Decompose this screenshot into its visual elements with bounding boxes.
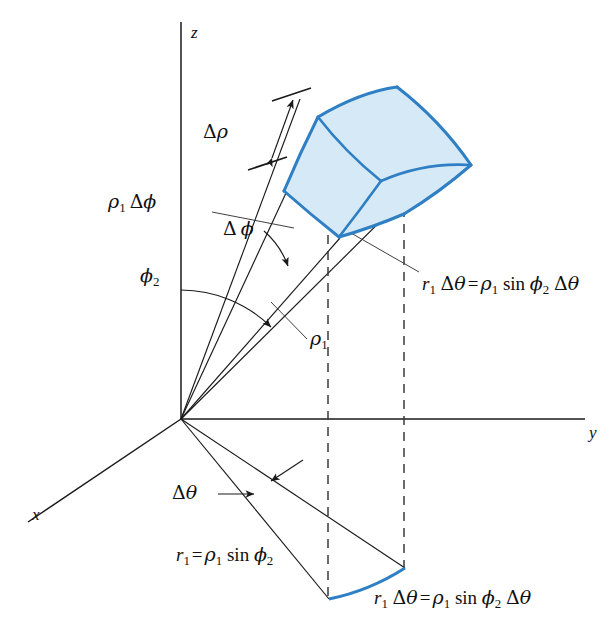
delta-theta-symbol: θ [186,481,197,503]
spherical-volume-element-solid [284,87,471,237]
delta-symbol: Δ [130,190,144,212]
phi-symbol: ϕ [143,190,156,212]
phi2-symbol: ϕ [140,264,153,286]
lower-phi-sub: 2 [495,596,501,611]
upper-theta1: θ [454,272,465,294]
r1-rho: ρ [205,543,216,565]
figure-canvas [0,0,611,625]
delta-phi-label: Δϕ [223,219,254,238]
delta-phi-angle-arc [264,231,288,266]
delta-rho-arrow [272,100,293,158]
lower-delta2: Δ [506,586,520,608]
lower-theta1: θ [406,586,417,608]
x-axis-label: x [32,506,40,523]
upper-r-sub: 1 [429,282,435,297]
lower-phi: ϕ [482,586,495,608]
rho1-delta-phi-label: ρ1Δϕ [108,192,156,215]
delta-rho-symbol: ρ [217,120,228,142]
upper-phi-sub: 2 [543,282,549,297]
arc-length-upper-label: r1 Δθ=ρ1 sin ϕ2 Δθ [422,274,579,297]
r1-phi: ϕ [254,543,267,565]
arc-length-lower-label: r1 Δθ=ρ1 sin ϕ2 Δθ [374,588,531,611]
ray-rho-outer-upper [181,99,300,419]
r1-sin: sin [227,544,249,565]
r1-equals: = [190,544,205,565]
spherical-volume-element-figure: z y x Δρ ρ1Δϕ Δϕ ϕ2 ρ1 Δθ r1=ρ1 sin ϕ2 r… [0,0,611,625]
upper-delta1: Δ [441,272,455,294]
rho-subscript: 1 [119,200,125,215]
rho-symbol: ρ [108,190,119,212]
sector-ray-near [181,419,329,599]
upper-rho-sub: 1 [492,282,498,297]
lower-rho: ρ [433,586,444,608]
upper-theta2: θ [568,272,579,294]
lower-equals: = [418,587,433,608]
delta-theta-label: Δθ [172,483,197,502]
delta-phi-symbol: ϕ [241,217,254,239]
rho1-subscript: 1 [321,337,327,352]
delta-rho-label: Δρ [203,122,228,141]
lower-rho-sub: 1 [444,596,450,611]
projection-dashed-lines [328,192,404,600]
x-axis [28,419,181,522]
rho1-symbol: ρ [310,327,321,349]
lower-sin: sin [455,587,477,608]
delta-rho-tick-lower [248,157,287,170]
delta-phi-delta: Δ [223,217,237,239]
upper-equals: = [466,273,481,294]
upper-sin: sin [503,273,525,294]
lower-delta1: Δ [393,586,407,608]
xy-plane-sector [181,419,405,599]
r1-rho-sub: 1 [216,553,222,568]
delta-rho-tick-upper [272,88,311,101]
lower-r-sub: 1 [381,596,387,611]
r1-phi-sub: 2 [267,553,273,568]
upper-rho: ρ [481,272,492,294]
lower-theta2: θ [520,586,531,608]
z-axis-label: z [191,24,198,41]
rho1-label: ρ1 [310,329,328,352]
y-axis-label: y [589,424,597,441]
delta-rho-delta: Δ [203,120,217,142]
coordinate-axes [28,22,585,522]
r1-definition-label: r1=ρ1 sin ϕ2 [176,545,273,568]
phi2-label: ϕ2 [140,266,159,289]
phi2-subscript: 2 [153,274,159,289]
delta-theta-delta: Δ [172,481,186,503]
r1-sub: 1 [183,553,189,568]
upper-delta2: Δ [554,272,568,294]
rho1-leader [271,302,307,339]
upper-phi: ϕ [530,272,543,294]
sector-pointer-arrow [271,460,303,481]
